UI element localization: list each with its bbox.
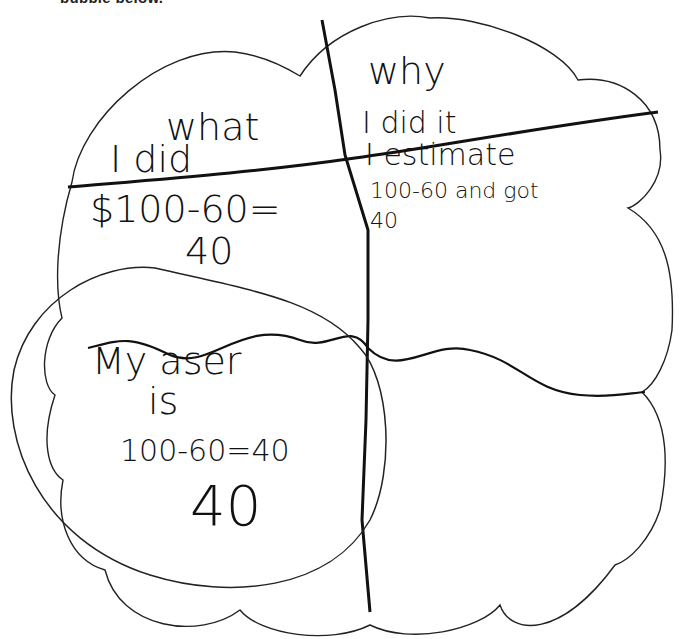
heading-i-did-it: I did it — [362, 108, 456, 138]
answer-equation: 100-60=40 — [120, 436, 290, 466]
reason-estimate: I estimate — [365, 140, 515, 170]
heading-why: why — [368, 52, 446, 90]
work-equation: $100-60= — [90, 190, 281, 228]
reason-calculation: 100-60 and got — [370, 180, 539, 202]
answer-is: is — [148, 382, 178, 420]
answer-label: My aser — [92, 342, 241, 380]
answer-final: 40 — [190, 478, 261, 534]
reason-result: 40 — [370, 210, 398, 232]
work-result: 40 — [185, 232, 233, 270]
empty-quadrant — [380, 400, 640, 580]
answer-circle — [11, 267, 386, 587]
heading-i-did: I did — [110, 140, 192, 178]
